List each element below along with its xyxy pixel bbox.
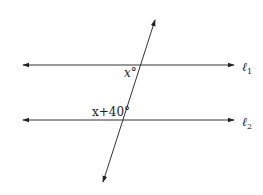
angle-label-x-plus-40: x+40° — [92, 105, 130, 119]
line-label-l2-subscript: 2 — [247, 122, 252, 131]
angle-label-x: x° — [124, 66, 137, 80]
transversal-line — [103, 20, 155, 182]
line-label-l2: ℓ2 — [242, 115, 252, 131]
line-label-l1-subscript: 1 — [247, 67, 252, 76]
diagram-canvas: x° x+40° ℓ1 ℓ2 — [0, 0, 263, 195]
line-label-l1: ℓ1 — [242, 60, 252, 76]
